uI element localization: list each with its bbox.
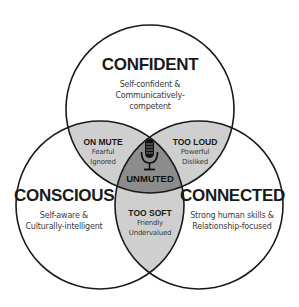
overlap-desc: Fearful Ignored <box>78 148 128 167</box>
venn-diagram <box>0 0 299 307</box>
overlap-desc: Friendly Undervalued <box>122 219 178 238</box>
center-title: UNMUTED <box>118 173 182 184</box>
circle-title: CONFIDENT <box>90 55 210 75</box>
circle-desc: Self-confident & Communicatively- compet… <box>90 79 210 112</box>
overlap-label-too-soft: TOO SOFT Friendly Undervalued <box>122 208 178 238</box>
overlap-title: ON MUTE <box>78 137 128 147</box>
overlap-title: TOO LOUD <box>168 137 222 147</box>
circle-title: CONNECTED <box>180 186 284 206</box>
circle-label-connected: CONNECTED Strong human skills & Relation… <box>180 186 284 232</box>
circle-desc: Self-aware & Culturally-intelligent <box>14 210 114 232</box>
overlap-title: TOO SOFT <box>122 208 178 218</box>
overlap-desc: Powerful Disliked <box>168 148 222 167</box>
circle-label-confident: CONFIDENT Self-confident & Communicative… <box>90 55 210 112</box>
circle-title: CONSCIOUS <box>14 186 114 206</box>
circle-label-conscious: CONSCIOUS Self-aware & Culturally-intell… <box>14 186 114 232</box>
circle-desc: Strong human skills & Relationship-focus… <box>180 210 284 232</box>
overlap-label-too-loud: TOO LOUD Powerful Disliked <box>168 137 222 167</box>
center-label-unmuted: UNMUTED <box>118 173 182 184</box>
overlap-label-on-mute: ON MUTE Fearful Ignored <box>78 137 128 167</box>
